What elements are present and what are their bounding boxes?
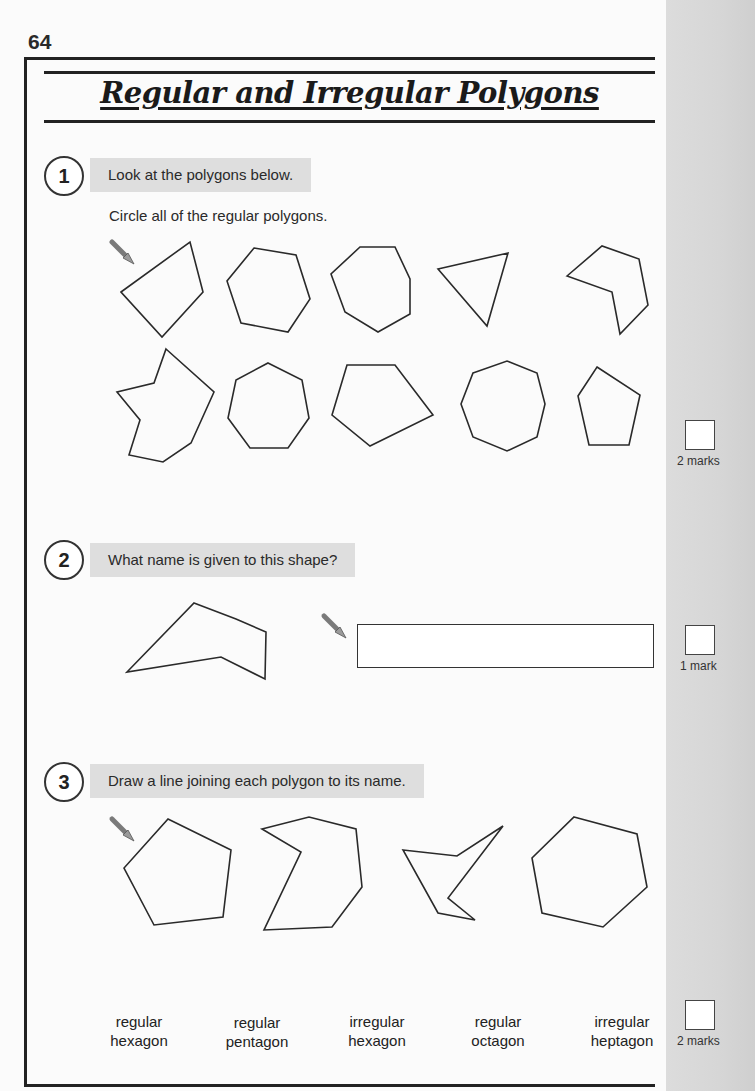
q2-marks-label: 1 mark [680,659,717,673]
q2-answer-field[interactable] [357,624,654,668]
q3-shape-irregular-hexagon[interactable] [403,826,503,920]
question-2-banner: What name is given to this shape? [90,543,355,577]
q3-shape-regular-hexagon[interactable] [532,817,647,927]
q2-mark-box[interactable] [685,625,715,655]
q3-name-regular-hexagon[interactable]: regular hexagon [84,1012,194,1050]
q3-name-irregular-hexagon[interactable]: irregular hexagon [322,1012,432,1050]
question-number-2: 2 [44,540,84,580]
q3-marks-label: 2 marks [677,1034,720,1048]
q1-shape-regular-octagon-2[interactable] [461,361,545,451]
q1-shape-irregular-concave-octagon[interactable] [117,349,214,462]
q1-mark-box[interactable] [685,420,715,450]
question-number-3: 3 [44,762,84,802]
q1-marks-label: 2 marks [677,454,720,468]
q1-shape-irregular-pentagon[interactable] [578,367,640,445]
q1-shape-regular-hexagon[interactable] [227,248,310,332]
q1-shape-regular-octagon[interactable] [331,247,410,332]
q3-shape-irregular-heptagon[interactable] [262,817,362,930]
q3-name-irregular-heptagon[interactable]: irregular heptagon [567,1012,677,1050]
q1-shape-irregular-triangle[interactable] [438,253,508,326]
question-3-banner: Draw a line joining each polygon to its … [90,764,424,798]
q1-shape-irregular-concave-hexagon[interactable] [567,246,648,334]
q2-shape-irregular-concave-pentagon [127,603,266,679]
q1-shape-irregular-quadrilateral[interactable] [121,242,203,337]
q3-mark-box[interactable] [685,1000,715,1030]
q1-shape-regular-pentagon[interactable] [332,365,433,446]
q3-name-regular-pentagon[interactable]: regular pentagon [202,1013,312,1051]
q3-name-regular-octagon[interactable]: regular octagon [443,1012,553,1050]
q1-shape-regular-heptagon[interactable] [228,363,309,448]
q3-shape-regular-pentagon[interactable] [124,819,231,925]
